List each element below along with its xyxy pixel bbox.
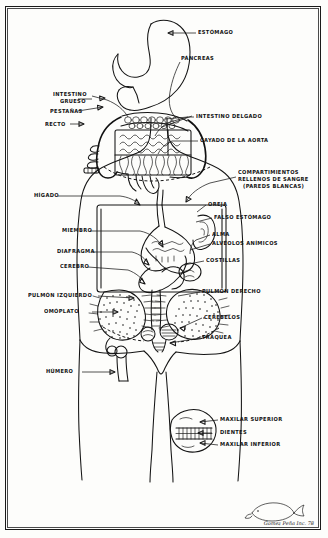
label-cerebelos: CEREBELOS <box>204 314 240 322</box>
label-maxilar-superior: MAXILAR SUPERIOR <box>220 416 282 424</box>
label-intestino-grueso-line2: GRUESO <box>60 98 86 106</box>
pancreas-organ <box>121 113 188 131</box>
label-alveolos-animicos: ALVÉOLOS ANÍMICOS <box>212 240 278 248</box>
label-pestanas: PESTAÑAS <box>50 108 83 116</box>
label-diafragma: DIAFRAGMA <box>57 248 95 256</box>
label-pulmon-izquierdo: PULMÓN IZQUIERDO <box>28 292 92 300</box>
label-pulmon-derecho: PULMÓN DERECHO <box>202 288 261 296</box>
anatomical-drawing <box>0 0 328 538</box>
label-omoplato: OMÓPLATO <box>44 308 79 316</box>
whale-doodle <box>245 503 304 521</box>
jaw-teeth-organ <box>171 409 217 452</box>
artist-signature: Gomez Peña Inc. 78 <box>264 520 314 526</box>
label-maxilar-inferior: MAXILAR INFERIOR <box>220 441 281 449</box>
body-outline <box>77 118 243 482</box>
label-alma: ALMA <box>212 231 230 239</box>
drawing-page: ESTÓMAGO PÁNCREAS INTESTINO GRUESO PESTA… <box>0 0 328 538</box>
label-traquea: TRÁQUEA <box>202 334 232 342</box>
label-pancreas: PÁNCREAS <box>181 55 214 63</box>
label-humero: HÚMERO <box>46 368 73 376</box>
label-intestino-delgado: INTESTINO DELGADO <box>196 113 262 121</box>
label-costillas: COSTILLAS <box>206 257 240 265</box>
label-falso-estomago: FALSO ESTÓMAGO <box>214 214 271 222</box>
label-oreja: OREJA <box>208 201 227 209</box>
label-miembro: MIEMBRO <box>62 227 92 235</box>
label-cayado-aorta: CAYADO DE LA AORTA <box>200 137 268 145</box>
label-cerebro: CEREBRO <box>60 263 89 271</box>
label-dientes: DIENTES <box>220 429 247 437</box>
label-estomago: ESTÓMAGO <box>198 29 233 37</box>
false-stomach-organ <box>139 226 201 293</box>
label-higado: HÍGADO <box>34 192 59 200</box>
humerus-bone <box>106 338 128 381</box>
label-compartimientos-line3: (PAREDS BLANCAS) <box>243 183 304 191</box>
intestine-head-mass <box>84 117 206 191</box>
label-recto: RECTO <box>45 121 66 129</box>
